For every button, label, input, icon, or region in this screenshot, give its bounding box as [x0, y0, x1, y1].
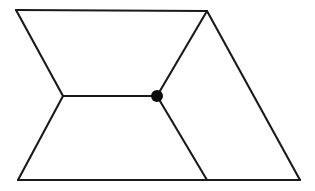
figure-canvas-container: [0, 0, 315, 191]
geometric-line-figure: [0, 0, 315, 191]
center-junction-dot: [151, 90, 163, 102]
edge-top-edge: [16, 10, 207, 11]
